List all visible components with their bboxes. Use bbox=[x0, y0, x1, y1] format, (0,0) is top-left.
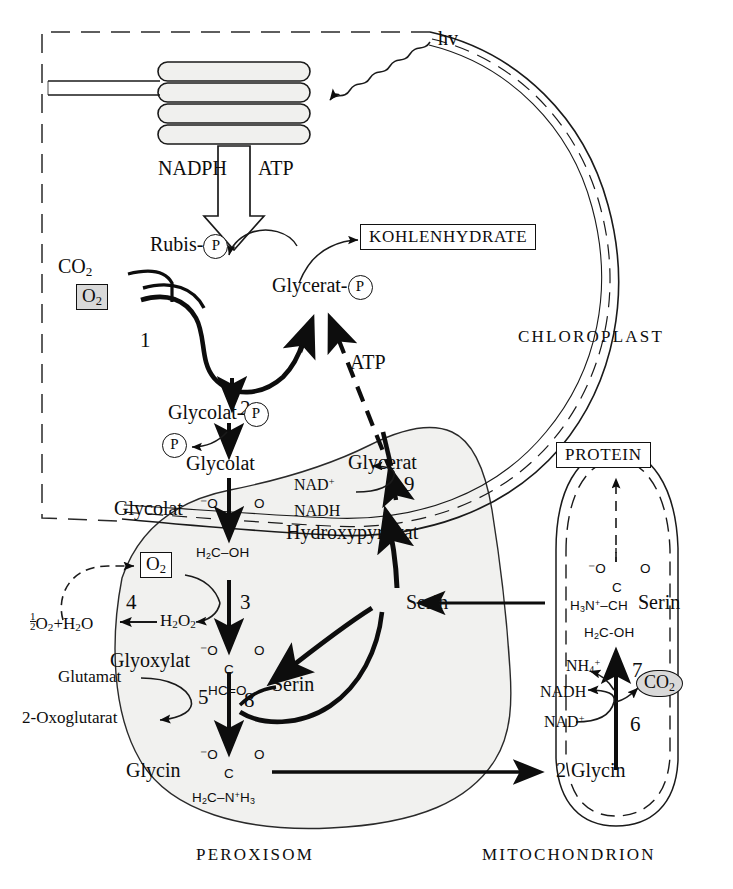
thylakoid-grana-stack bbox=[48, 62, 310, 144]
nadh-peroxisome: NADH bbox=[294, 503, 340, 519]
glyoxylate-structure-c: C bbox=[224, 663, 234, 677]
enzyme-step-5: 5 bbox=[198, 687, 209, 708]
ammonium-label: NH4+ bbox=[566, 658, 600, 676]
released-phosphate: P bbox=[162, 433, 187, 458]
glycolate-chloroplast: Glycolat bbox=[186, 453, 255, 473]
rubisco-substrate: Rubis-P bbox=[150, 234, 228, 259]
glycolate-phosphate: Glycolat-P bbox=[168, 402, 269, 427]
phosphate-group-icon: P bbox=[244, 402, 269, 427]
enzyme-step-4: 4 bbox=[126, 592, 137, 613]
serine-hub-label: Serin bbox=[406, 592, 448, 612]
one-half-fraction: 12 bbox=[30, 612, 36, 632]
glyoxylate-structure-o: O bbox=[254, 644, 265, 658]
glycerate-phosphate: Glycerat-P bbox=[272, 275, 373, 300]
water-oxygen-products: 12O2+H2O bbox=[30, 612, 93, 633]
glycolate-structure-ch2oh: H2C–OH bbox=[196, 546, 249, 561]
glycine-peroxisome: Glycin bbox=[126, 760, 180, 780]
co2-input: CO2 bbox=[58, 256, 92, 278]
o2-input-box: O2 bbox=[76, 284, 108, 310]
atp-transport-label: ATP bbox=[350, 352, 386, 372]
glutamate-label: Glutamat bbox=[58, 668, 121, 685]
enzyme-step-1: 1 bbox=[140, 330, 151, 351]
glycine-structure-o: O bbox=[254, 748, 265, 762]
glyoxylate-structure-hco: HC=O bbox=[208, 684, 247, 698]
phosphate-group-icon: P bbox=[203, 234, 228, 259]
oxygenase-cycle-arc-outer bbox=[141, 297, 303, 392]
oxoglutarate-label: 2-Oxoglutarat bbox=[22, 709, 117, 726]
phosphate-group-icon: P bbox=[348, 275, 373, 300]
enzyme-step-9: 9 bbox=[404, 474, 415, 495]
hydrogen-peroxide: H2O2 bbox=[160, 612, 196, 631]
rubisp-label: Rubis- bbox=[150, 233, 203, 255]
glyceratp-label: Glycerat- bbox=[272, 274, 348, 296]
glycine-structure-c: C bbox=[224, 767, 234, 781]
serine-mitochondrion-label: Serin bbox=[638, 592, 680, 612]
glycerate-peroxisome: Glycerat bbox=[348, 452, 417, 472]
serine-structure-o: O bbox=[640, 562, 651, 576]
compartment-label-peroxisome: PEROXISOM bbox=[196, 846, 314, 863]
enzyme-step-8: 8 bbox=[244, 690, 255, 711]
nadh-mitochondrion: NADH bbox=[540, 684, 586, 700]
phosphate-release-curve bbox=[192, 432, 227, 447]
oxygenase-cycle-arrowhead-up bbox=[300, 320, 312, 352]
nad-plus-peroxisome: NAD+ bbox=[294, 477, 334, 493]
serine-structure-c: C bbox=[612, 581, 622, 595]
serine-step8-label: Serin bbox=[272, 674, 314, 694]
hydroxypyruvate-label: Hydroxypyruvat bbox=[286, 522, 418, 542]
glyoxylate-label: Glyoxylat bbox=[110, 650, 190, 670]
glycine-structure-o-minus: ⁻O bbox=[200, 748, 218, 762]
light-wave-arrow bbox=[330, 42, 430, 100]
serine-structure-o-minus: ⁻O bbox=[588, 562, 606, 576]
glycine-structure-ch2nh3: H2C–N+H3 bbox=[192, 791, 255, 806]
enzyme-step-3: 3 bbox=[240, 592, 251, 613]
diagram-canvas: hv NADPH ATP CHLOROPLAST KOHLENHYDRATE R… bbox=[0, 0, 733, 889]
nad-plus-mitochondrion: NAD+ bbox=[544, 714, 584, 730]
light-label: hv bbox=[438, 28, 458, 48]
phosphate-group-icon: P bbox=[162, 433, 187, 458]
enzyme-step-6: 6 bbox=[630, 714, 641, 735]
glycolatp-label: Glycolat- bbox=[168, 401, 244, 423]
glyoxylate-structure-o-minus: ⁻O bbox=[200, 644, 218, 658]
o2-peroxisome-box: O2 bbox=[140, 552, 172, 578]
compartment-label-chloroplast: CHLOROPLAST bbox=[518, 328, 664, 345]
glycolate-structure-o-minus: ⁻O bbox=[200, 497, 218, 511]
serine-structure-h3n-ch: H3N+–CH bbox=[570, 599, 628, 614]
glycolate-peroxisome: Glycolat bbox=[114, 498, 183, 518]
compartment-label-mitochondrion: MITOCHONDRION bbox=[482, 846, 656, 863]
carbohydrate-product-box[interactable]: KOHLENHYDRATE bbox=[360, 224, 536, 250]
glycolate-structure-o: O bbox=[254, 497, 265, 511]
glycolate-structure-c: C bbox=[224, 516, 234, 530]
serine-structure-ch2oh: H2C-OH bbox=[584, 626, 634, 641]
glycine-mitochondrion: 2 Glycin bbox=[556, 760, 625, 780]
nadph-label: NADPH bbox=[158, 158, 227, 178]
protein-product-box[interactable]: PROTEIN bbox=[556, 442, 651, 468]
co2-output-oval: CO2 bbox=[636, 670, 683, 697]
atp-label: ATP bbox=[258, 158, 294, 178]
